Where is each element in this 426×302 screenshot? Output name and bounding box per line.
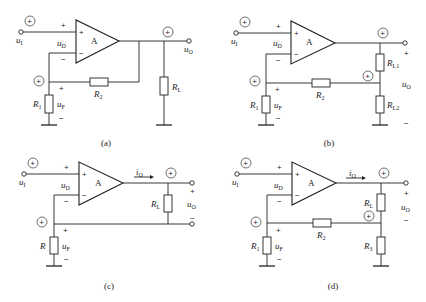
amp-label: A	[91, 36, 98, 46]
svg-text:+: +	[168, 169, 173, 178]
svg-text:+: +	[294, 29, 299, 38]
resistor-rl2	[376, 96, 384, 113]
polarity-marker: +	[240, 17, 250, 27]
r3-label: R3	[363, 241, 373, 252]
svg-text:−: −	[294, 50, 299, 59]
current-arrow-icon	[150, 175, 154, 179]
feedback-voltage-label: uF	[274, 100, 283, 111]
resistor-r1	[263, 237, 271, 254]
polarity-marker: +	[166, 168, 176, 178]
diff-voltage-label: uD	[273, 38, 283, 49]
r2-label: R2	[316, 230, 326, 241]
circuit-c: + + + + − A + − uI uD iO + uO − RL R + u…	[19, 158, 197, 291]
resistor-r2	[312, 79, 330, 87]
polarity-marker: +	[34, 76, 44, 86]
resistor-r2	[90, 78, 108, 86]
svg-text:−: −	[59, 114, 64, 123]
output-terminal	[187, 39, 191, 43]
polarity-marker: +	[163, 27, 173, 37]
circuit-figure: + + + + − A + − uI uD uO R2 R1 RL + uF −…	[0, 0, 426, 302]
caption: (d)	[328, 281, 339, 291]
resistor-rl	[377, 194, 385, 211]
resistor-r1	[45, 95, 53, 113]
resistor-rl	[160, 77, 168, 95]
output-terminal	[404, 181, 408, 185]
rl-label: RL	[363, 198, 374, 209]
polarity-marker: +	[378, 28, 388, 38]
caption: (b)	[324, 138, 335, 148]
r-label: R	[39, 241, 46, 251]
svg-text:+: +	[404, 189, 409, 198]
current-label: iO	[136, 167, 144, 178]
rl-label: RL	[150, 199, 161, 210]
feedback-voltage-label: uF	[275, 241, 284, 252]
svg-text:−: −	[64, 197, 69, 206]
svg-text:−: −	[276, 114, 281, 123]
resistor-rl	[164, 195, 172, 212]
svg-text:+: +	[276, 22, 281, 31]
svg-text:+: +	[27, 17, 32, 26]
output-terminal	[403, 41, 407, 45]
svg-text:−: −	[82, 191, 87, 200]
caption: (a)	[101, 138, 111, 148]
svg-text:−: −	[64, 255, 69, 264]
amp-label: A	[306, 37, 313, 47]
input-label: uI	[16, 35, 23, 46]
rl-label: RL	[171, 82, 182, 93]
r2-label: R2	[93, 89, 103, 100]
r2-label: R2	[315, 90, 325, 101]
svg-text:+: +	[61, 21, 66, 30]
diff-voltage-label: uD	[61, 180, 71, 191]
polarity-marker: +	[241, 158, 251, 168]
polarity-marker: +	[363, 71, 373, 81]
r1-label: R1	[249, 100, 259, 111]
svg-text:+: +	[380, 29, 385, 38]
circuit-d: + + + + + − A + − uI uD iO + uO − RL R3 …	[232, 158, 411, 291]
svg-text:−: −	[404, 216, 409, 225]
svg-text:−: −	[61, 55, 66, 64]
output-label: uO	[401, 202, 411, 213]
feedback-voltage-label: uF	[62, 241, 71, 252]
output-label: uO	[187, 199, 197, 210]
svg-text:+: +	[404, 49, 409, 58]
svg-text:+: +	[276, 226, 281, 235]
svg-text:+: +	[242, 18, 247, 27]
polarity-marker: +	[379, 168, 389, 178]
input-label: uI	[19, 177, 26, 188]
svg-text:+: +	[39, 218, 44, 227]
input-terminal	[235, 172, 239, 176]
svg-text:+: +	[63, 226, 68, 235]
current-label: iO	[349, 168, 357, 179]
polarity-marker: +	[250, 76, 260, 86]
rl2-label: RL2	[386, 100, 399, 111]
svg-text:−: −	[276, 56, 281, 65]
svg-text:+: +	[366, 212, 371, 221]
svg-text:+: +	[165, 28, 170, 37]
svg-text:+: +	[30, 159, 35, 168]
svg-text:+: +	[252, 77, 257, 86]
amp-label: A	[308, 178, 315, 188]
amp-label: A	[95, 178, 102, 188]
svg-text:+: +	[275, 85, 280, 94]
polarity-marker: +	[28, 158, 38, 168]
resistor-r1	[262, 96, 270, 113]
output-label: uO	[402, 79, 412, 90]
svg-text:+: +	[59, 84, 64, 93]
svg-text:+: +	[82, 170, 87, 179]
resistor-rl1	[376, 54, 384, 71]
resistor-r	[50, 237, 58, 254]
r1-label: R1	[250, 241, 260, 252]
output-terminal-plus	[190, 181, 194, 185]
input-label: uI	[231, 36, 238, 47]
current-arrow-icon	[362, 176, 366, 180]
resistor-r2	[313, 219, 331, 227]
svg-text:−: −	[190, 214, 195, 223]
svg-text:+: +	[365, 72, 370, 81]
svg-text:+: +	[64, 163, 69, 172]
circuit-a: + + + + − A + − uI uD uO R2 R1 RL + uF −…	[16, 16, 194, 148]
polarity-marker: +	[251, 217, 261, 227]
resistor-r3	[377, 237, 385, 254]
polarity-marker: +	[25, 16, 35, 26]
svg-text:−: −	[404, 119, 409, 128]
r1-label: R1	[32, 99, 42, 110]
